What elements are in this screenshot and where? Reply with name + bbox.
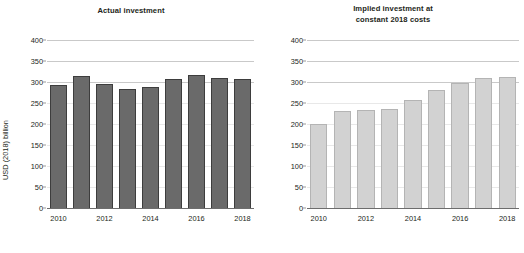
x-tick-label-2014: 2014 [405, 214, 421, 223]
plot-area-right: 050100150200250300350400 201020122014201… [307, 40, 519, 208]
x-tick-label-2010: 2010 [50, 214, 66, 223]
y-tick-label-400: 400 [31, 36, 43, 45]
y-tick-label-350: 350 [31, 57, 43, 66]
bar-slot [472, 40, 496, 208]
y-tick-label-200: 200 [291, 120, 303, 129]
y-tick-mark-350 [303, 61, 306, 62]
figure-two-panel-bar-charts: Actual investment USD (2018) billion 050… [0, 0, 524, 253]
bars-right [307, 40, 519, 208]
bar-2016 [188, 75, 205, 208]
y-tick-mark-200 [303, 124, 306, 125]
bar-2015 [428, 90, 445, 208]
x-tick-label-2016: 2016 [188, 214, 204, 223]
bar-slot [93, 40, 116, 208]
bar-slot [307, 40, 331, 208]
panel-right-title-line1: Implied investment at [262, 4, 524, 15]
panel-right-title: Implied investment at constant 2018 cost… [262, 4, 524, 25]
bars-left [47, 40, 254, 208]
bar-2013 [119, 89, 136, 208]
y-tick-label-150: 150 [291, 141, 303, 150]
bar-slot [425, 40, 449, 208]
y-tick-label-150: 150 [31, 141, 43, 150]
x-tick-label-2016: 2016 [452, 214, 468, 223]
x-axis-ticks-right: 20102012201420162018 [307, 208, 519, 230]
y-tick-label-300: 300 [291, 78, 303, 87]
bar-slot [208, 40, 231, 208]
x-tick-label-2010: 2010 [311, 214, 327, 223]
y-tick-label-50: 50 [295, 183, 303, 192]
y-tick-mark-250 [43, 103, 46, 104]
x-tick-label-2012: 2012 [96, 214, 112, 223]
bar-slot [116, 40, 139, 208]
y-tick-mark-150 [43, 145, 46, 146]
y-tick-label-100: 100 [291, 162, 303, 171]
bar-2017 [211, 78, 228, 208]
y-axis-label: USD (2018) billion [1, 50, 13, 180]
bar-slot [231, 40, 254, 208]
y-tick-mark-400 [303, 40, 306, 41]
y-tick-mark-300 [43, 82, 46, 83]
x-tick-label-2012: 2012 [358, 214, 374, 223]
bar-2017 [475, 78, 492, 208]
y-tick-mark-0 [43, 208, 46, 209]
bar-slot [162, 40, 185, 208]
y-tick-mark-100 [43, 166, 46, 167]
y-tick-mark-200 [43, 124, 46, 125]
panel-right-title-line2: constant 2018 costs [262, 15, 524, 26]
y-tick-mark-50 [43, 187, 46, 188]
plot-area-left: 050100150200250300350400 201020122014201… [47, 40, 254, 208]
bar-2012 [96, 84, 113, 208]
y-tick-label-200: 200 [31, 120, 43, 129]
bar-2015 [165, 79, 182, 208]
bar-slot [185, 40, 208, 208]
bar-slot [401, 40, 425, 208]
bar-slot [354, 40, 378, 208]
bar-2011 [334, 111, 351, 208]
y-tick-label-400: 400 [291, 36, 303, 45]
y-tick-label-250: 250 [31, 99, 43, 108]
y-tick-mark-300 [303, 82, 306, 83]
y-tick-mark-350 [43, 61, 46, 62]
y-tick-label-300: 300 [31, 78, 43, 87]
panel-implied-investment: Implied investment at constant 2018 cost… [262, 0, 524, 253]
bar-slot [47, 40, 70, 208]
y-tick-label-50: 50 [35, 183, 43, 192]
x-axis-ticks-left: 20102012201420162018 [47, 208, 254, 230]
bar-2018 [234, 79, 251, 208]
bar-2010 [50, 85, 67, 208]
bar-2011 [73, 76, 90, 208]
y-tick-mark-150 [303, 145, 306, 146]
y-tick-mark-400 [43, 40, 46, 41]
y-tick-label-100: 100 [31, 162, 43, 171]
y-tick-mark-50 [303, 187, 306, 188]
y-tick-mark-250 [303, 103, 306, 104]
bar-2014 [404, 100, 421, 208]
y-tick-label-250: 250 [291, 99, 303, 108]
bar-2012 [357, 110, 374, 208]
bar-slot [378, 40, 402, 208]
y-tick-mark-100 [303, 166, 306, 167]
bar-slot [70, 40, 93, 208]
bar-2010 [310, 124, 327, 208]
bar-2018 [499, 77, 516, 208]
bar-slot [448, 40, 472, 208]
bar-slot [331, 40, 355, 208]
x-tick-label-2018: 2018 [234, 214, 250, 223]
panel-actual-investment: Actual investment USD (2018) billion 050… [0, 0, 262, 253]
x-tick-label-2014: 2014 [142, 214, 158, 223]
bar-slot [139, 40, 162, 208]
y-tick-label-350: 350 [291, 57, 303, 66]
bar-slot [496, 40, 520, 208]
panel-left-title: Actual investment [0, 6, 262, 17]
y-tick-mark-0 [303, 208, 306, 209]
bar-2014 [142, 87, 159, 208]
bar-2016 [451, 83, 468, 208]
x-tick-label-2018: 2018 [499, 214, 515, 223]
bar-2013 [381, 109, 398, 208]
